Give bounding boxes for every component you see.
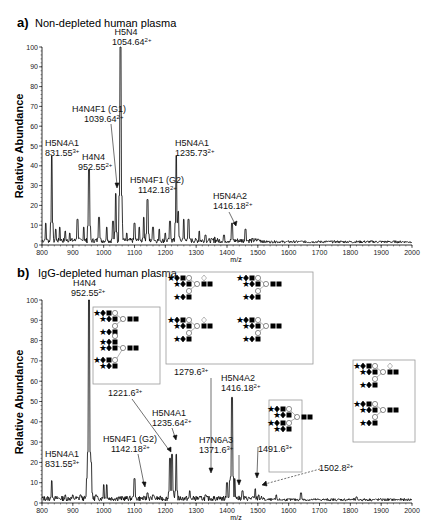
label-a1-left-value: 831.553+ — [45, 148, 80, 158]
svg-text:1700: 1700 — [312, 249, 328, 256]
svg-text:★: ★ — [242, 334, 250, 344]
panel-a-xlabel: m/z — [230, 256, 242, 263]
panel-b-xlabel: m/z — [230, 514, 242, 521]
svg-text:1000: 1000 — [96, 249, 112, 256]
label-h5n4: H5N4 — [114, 27, 137, 37]
svg-text:900: 900 — [67, 507, 79, 514]
label-b-a1-left-value: 831.553+ — [45, 459, 80, 469]
panel-b-letter: b) — [17, 265, 29, 280]
panel-b: b) IgG-depleted human plasma Relative Ab… — [13, 265, 420, 521]
svg-text:70: 70 — [30, 103, 38, 110]
label-h4n4: H4N4 — [82, 152, 105, 162]
label-b-h4n4: H4N4 — [73, 278, 96, 288]
svg-text:900: 900 — [67, 249, 79, 256]
svg-text:800: 800 — [36, 507, 48, 514]
svg-text:1500: 1500 — [250, 507, 266, 514]
spectra-figure: a) Non-depleted human plasma Relative Ab… — [0, 0, 440, 522]
label-b-a1: H5N4A1 — [152, 408, 186, 418]
svg-text:1400: 1400 — [219, 507, 235, 514]
svg-text:80: 80 — [30, 337, 38, 344]
label-g1-value: 1039.642+ — [84, 114, 124, 124]
svg-text:10: 10 — [30, 222, 38, 229]
label-a1-right: H5N4A1 — [175, 138, 209, 148]
svg-text:1300: 1300 — [188, 249, 204, 256]
svg-text:★: ★ — [173, 292, 181, 302]
svg-text:70: 70 — [30, 357, 38, 364]
svg-text:1900: 1900 — [373, 249, 389, 256]
label-b-a1-left: H5N4A1 — [45, 449, 79, 459]
svg-text:90: 90 — [30, 63, 38, 70]
svg-text:40: 40 — [30, 162, 38, 169]
svg-text:100: 100 — [26, 297, 38, 304]
svg-text:★: ★ — [359, 405, 367, 415]
svg-text:1200: 1200 — [158, 249, 174, 256]
svg-text:2000: 2000 — [404, 507, 420, 514]
svg-text:★: ★ — [99, 314, 107, 324]
svg-text:★: ★ — [242, 279, 250, 289]
panel-a-letter: a) — [17, 15, 29, 30]
svg-text:40: 40 — [30, 418, 38, 425]
svg-text:20: 20 — [30, 459, 38, 466]
svg-text:1500: 1500 — [250, 249, 266, 256]
svg-text:60: 60 — [30, 123, 38, 130]
svg-text:60: 60 — [30, 378, 38, 385]
svg-text:★: ★ — [173, 279, 181, 289]
svg-text:100: 100 — [26, 44, 38, 51]
svg-text:20: 20 — [30, 202, 38, 209]
label-a2-value: 1416.182+ — [213, 201, 253, 211]
svg-text:1600: 1600 — [281, 507, 297, 514]
panel-b-ylabel: Relative Abundance — [13, 350, 25, 455]
label-b-1491: 1491.63+ — [258, 444, 293, 454]
panel-a-title: Non-depleted human plasma — [35, 17, 177, 29]
svg-text:★: ★ — [359, 380, 367, 390]
svg-text:★: ★ — [99, 361, 107, 371]
svg-text:30: 30 — [30, 182, 38, 189]
panel-b-title: IgG-depleted human plasma — [38, 267, 178, 279]
svg-text:1100: 1100 — [127, 249, 142, 256]
svg-text:★: ★ — [99, 343, 107, 353]
label-b-a1-value: 1235.642+ — [152, 418, 192, 428]
svg-text:80: 80 — [30, 83, 38, 90]
svg-text:1300: 1300 — [188, 507, 204, 514]
svg-text:★: ★ — [242, 292, 250, 302]
label-a2: H5N4A2 — [213, 191, 247, 201]
svg-text:★: ★ — [359, 367, 367, 377]
label-a1-left: H5N4A1 — [45, 138, 79, 148]
label-b-1221: 1221.63+ — [108, 388, 143, 398]
label-b-a3-value: 1371.63+ — [199, 445, 234, 455]
svg-text:1200: 1200 — [158, 507, 174, 514]
svg-text:1800: 1800 — [343, 249, 359, 256]
label-g1: H4N4F1 (G1) — [72, 104, 126, 114]
label-b-h4n4-value: 952.552+ — [71, 288, 106, 298]
svg-text:30: 30 — [30, 439, 38, 446]
svg-text:1600: 1600 — [281, 249, 297, 256]
svg-text:10: 10 — [30, 479, 38, 486]
label-b-a2-value: 1416.182+ — [221, 383, 261, 393]
svg-text:0: 0 — [34, 500, 38, 507]
label-h5n4-value: 1054.642+ — [112, 37, 152, 47]
svg-text:1000: 1000 — [96, 507, 112, 514]
svg-text:1100: 1100 — [127, 507, 142, 514]
label-b-a3: H7N6A3 — [199, 435, 233, 445]
panel-a-ylabel: Relative Abundance — [13, 94, 25, 199]
svg-text:2000: 2000 — [404, 249, 420, 256]
panel-a-axes: 8009001000110012001300140015001600170018… — [26, 44, 420, 257]
svg-text:1400: 1400 — [219, 249, 235, 256]
label-b-1279: 1279.63+ — [174, 367, 209, 377]
label-b-1502: 1502.82+ — [319, 463, 354, 473]
svg-text:50: 50 — [30, 143, 38, 150]
panel-a: a) Non-depleted human plasma Relative Ab… — [13, 15, 420, 263]
svg-text:★: ★ — [359, 418, 367, 428]
label-h4n4-value: 952.552+ — [78, 162, 113, 172]
label-b-a2: H5N4A2 — [221, 373, 255, 383]
svg-text:★: ★ — [99, 327, 107, 337]
label-b-g2-value: 1142.182+ — [111, 444, 150, 454]
svg-text:0: 0 — [34, 242, 38, 249]
panel-b-arrows — [132, 378, 320, 487]
svg-text:1900: 1900 — [373, 507, 389, 514]
svg-text:★: ★ — [173, 334, 181, 344]
label-g2-value: 1142.182+ — [138, 185, 177, 195]
svg-text:1700: 1700 — [312, 507, 328, 514]
panel-a-annotations: H5N4 1054.642+ H4N4F1 (G1) 1039.642+ H5N… — [45, 27, 253, 211]
svg-text:★: ★ — [173, 321, 181, 331]
